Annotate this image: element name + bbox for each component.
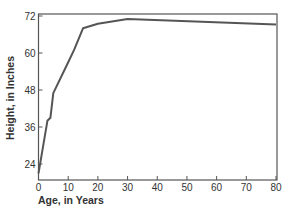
x-axis: 01020304050607080 — [36, 176, 282, 193]
x-axis-title: Age, in Years — [38, 194, 104, 206]
series-layer — [39, 19, 277, 173]
x-tick-label: 0 — [36, 182, 42, 193]
y-tick-label: 24 — [24, 159, 36, 170]
y-axis-title: Height, in Inches — [4, 56, 16, 140]
y-tick-label: 48 — [24, 85, 36, 96]
x-tick-label: 40 — [152, 182, 164, 193]
x-tick-label: 70 — [241, 182, 253, 193]
plot-border — [39, 14, 278, 180]
x-tick-label: 50 — [181, 182, 193, 193]
x-tick-label: 20 — [92, 182, 104, 193]
x-tick-label: 80 — [270, 182, 282, 193]
y-axis: 2436486072 — [24, 11, 42, 170]
x-tick-label: 10 — [63, 182, 75, 193]
y-tick-label: 60 — [24, 48, 36, 59]
y-tick-label: 72 — [24, 11, 36, 22]
x-tick-label: 60 — [211, 182, 223, 193]
x-tick-label: 30 — [122, 182, 134, 193]
y-tick-label: 36 — [24, 122, 36, 133]
plot-frame — [39, 14, 278, 180]
series-line-height — [39, 19, 277, 173]
height-by-age-chart: 01020304050607080 2436486072 Age, in Yea… — [0, 0, 288, 213]
